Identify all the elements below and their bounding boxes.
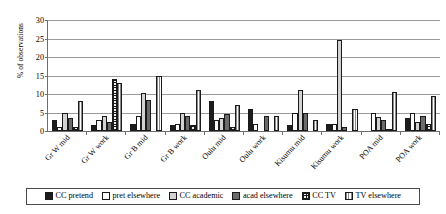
x-axis-label-text: POA mid <box>358 133 385 161</box>
y-tick-label: 0 <box>40 127 44 136</box>
legend-label: CC TV <box>312 192 336 200</box>
x-axis-label-text: Gr W mid <box>43 133 72 163</box>
x-label-cell: POA work <box>400 131 439 183</box>
x-label-cell: Gr W work <box>86 131 125 183</box>
x-axis-tick-labels: Gr W midGr W workGr B midGr B workOulu m… <box>47 131 439 183</box>
legend-label: CC pretend <box>55 192 93 200</box>
legend-label: pret elsewhere <box>113 192 161 200</box>
legend-item[interactable]: CC academic <box>169 192 223 200</box>
legend-swatch-icon <box>45 192 53 200</box>
bar <box>337 40 342 131</box>
x-axis-label-text: Gr B mid <box>122 133 149 161</box>
y-tick-label: 30 <box>36 16 44 25</box>
legend-swatch-icon <box>169 192 177 200</box>
x-label-cell: Kisumu work <box>321 131 360 183</box>
legend-swatch-icon <box>302 192 310 200</box>
legend-item[interactable]: CC pretend <box>45 192 93 200</box>
legend-item[interactable]: TV elsewhere <box>345 192 401 200</box>
legend-swatch-icon <box>102 192 110 200</box>
legend-label: CC academic <box>180 192 224 200</box>
y-tick-label: 25 <box>36 34 44 43</box>
chart-legend: CC pretendpret elsewhereCC academicacad … <box>26 188 420 205</box>
legend-swatch-icon <box>345 192 353 200</box>
bar-chart: % of observations 051015202530 Gr W midG… <box>0 0 446 214</box>
y-tick-label: 5 <box>40 108 44 117</box>
y-tick-label: 20 <box>36 53 44 62</box>
x-tick-mark <box>439 131 440 135</box>
legend-item[interactable]: CC TV <box>302 192 336 200</box>
y-tick-label: 15 <box>36 71 44 80</box>
legend-label: acad elsewhere <box>243 192 293 200</box>
legend-item[interactable]: acad elsewhere <box>232 192 292 200</box>
legend-label: TV elsewhere <box>355 192 401 200</box>
bar <box>253 124 258 131</box>
y-axis-title: % of observations <box>16 0 25 107</box>
legend-item[interactable]: pret elsewhere <box>102 192 160 200</box>
y-tick-label: 10 <box>36 90 44 99</box>
x-axis-label-text: Oulu mid <box>201 133 228 161</box>
x-label-cell: Gr B work <box>165 131 204 183</box>
legend-swatch-icon <box>232 192 240 200</box>
